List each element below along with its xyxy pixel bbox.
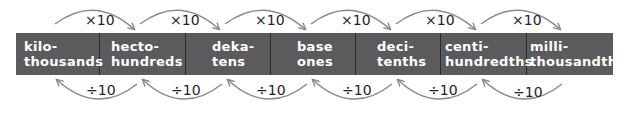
cell-centi: centi- hundredths bbox=[441, 33, 527, 75]
cell-deci: deci- tenths bbox=[356, 33, 441, 75]
multiply-label: ×10 bbox=[425, 12, 455, 28]
multiply-label: ×10 bbox=[255, 12, 285, 28]
multiply-arrows bbox=[55, 10, 560, 29]
cell-deka: deka- tens bbox=[186, 33, 271, 75]
divide-label: ÷10 bbox=[171, 82, 201, 98]
place-value-bar: kilo- thousands hecto- hundreds deka- te… bbox=[16, 33, 613, 75]
multiply-label: ×10 bbox=[512, 12, 542, 28]
divide-label: ÷10 bbox=[342, 82, 372, 98]
multiply-label: ×10 bbox=[85, 12, 115, 28]
cell-place: hundreds bbox=[111, 54, 185, 69]
cell-prefix: kilo- bbox=[24, 39, 99, 54]
cell-prefix: milli- bbox=[530, 39, 613, 54]
cell-kilo: kilo- thousands bbox=[16, 33, 100, 75]
divide-label: ÷10 bbox=[256, 82, 286, 98]
multiply-label: ×10 bbox=[341, 12, 371, 28]
divide-label: ÷10 bbox=[428, 82, 458, 98]
cell-place: tenths bbox=[377, 54, 440, 69]
cell-place: thousandths bbox=[530, 54, 613, 69]
divide-label: ÷10 bbox=[86, 82, 116, 98]
divide-arrows bbox=[57, 80, 562, 99]
cell-base: base ones bbox=[271, 33, 356, 75]
cell-place: hundredths bbox=[445, 54, 526, 69]
cell-prefix: deci- bbox=[377, 39, 440, 54]
cell-prefix: hecto- bbox=[111, 39, 185, 54]
cell-hecto: hecto- hundreds bbox=[100, 33, 186, 75]
cell-milli: milli- thousandths bbox=[527, 33, 613, 75]
divide-label: ÷10 bbox=[513, 84, 543, 100]
multiply-label: ×10 bbox=[170, 12, 200, 28]
cell-place: thousands bbox=[24, 54, 99, 69]
cell-prefix: deka- bbox=[212, 39, 270, 54]
cell-place: ones bbox=[297, 54, 355, 69]
cell-place: tens bbox=[212, 54, 270, 69]
cell-prefix: centi- bbox=[445, 39, 526, 54]
cell-prefix: base bbox=[297, 39, 355, 54]
